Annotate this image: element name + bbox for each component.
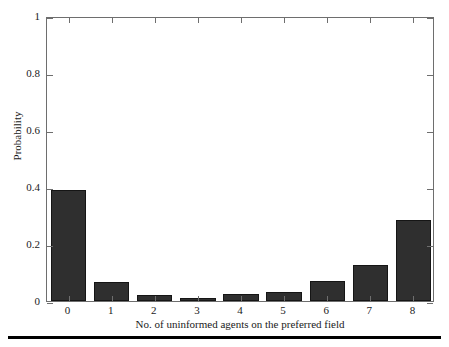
x-tick-label: 7 [357, 304, 381, 316]
y-axis-title: Probability [11, 86, 23, 186]
x-tick-label: 8 [400, 304, 424, 316]
y-tick-label: 0.8 [0, 68, 40, 79]
y-tick-label: 0 [0, 296, 40, 307]
x-axis-title: No. of uninformed agents on the preferre… [46, 318, 434, 331]
y-axis-tick-labels: 00.20.40.60.81 [0, 17, 449, 302]
figure-container: 00.20.40.60.81 012345678 No. of uninform… [0, 0, 449, 347]
x-tick-label: 3 [185, 304, 209, 316]
y-tick-label: 0.2 [0, 239, 40, 250]
x-tick-label: 4 [228, 304, 252, 316]
x-tick-label: 1 [99, 304, 123, 316]
bottom-horizontal-rule [8, 336, 441, 339]
x-tick-label: 6 [314, 304, 338, 316]
x-tick-label: 0 [56, 304, 80, 316]
x-tick-label: 5 [271, 304, 295, 316]
y-tick-label: 1 [0, 11, 40, 22]
x-tick-label: 2 [142, 304, 166, 316]
